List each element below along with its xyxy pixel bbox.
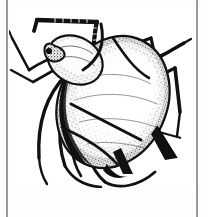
illustration-area bbox=[9, 8, 195, 188]
left-scan-edge bbox=[6, 0, 8, 217]
plate-bottom-margin bbox=[8, 189, 196, 217]
figure-root bbox=[0, 0, 208, 217]
compound-eye bbox=[46, 48, 52, 54]
aphid-illustration bbox=[9, 8, 195, 188]
right-scan-edge bbox=[196, 0, 198, 217]
